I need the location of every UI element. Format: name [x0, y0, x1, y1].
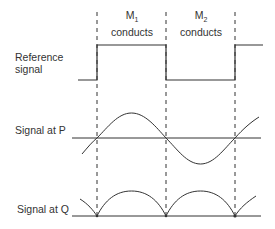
reference-label-line1: Reference [15, 51, 63, 63]
phase-m1-subscript: 1 [134, 16, 138, 23]
signal-p-label: Signal at P [15, 124, 66, 136]
reference-square-wave [78, 45, 263, 80]
reference-signal-label: Reference signal [15, 51, 63, 75]
reference-label-line2: signal [15, 63, 63, 75]
phase-label-m2: M2 conducts [172, 9, 230, 38]
phase-label-m1: M1 conducts [103, 9, 161, 38]
phase-m2-text: conducts [172, 26, 230, 38]
signal-q-rectified-wave [80, 191, 256, 216]
signal-q-label: Signal at Q [17, 203, 69, 215]
switching-boundary-lines [97, 12, 235, 216]
phase-m2-subscript: 2 [203, 16, 207, 23]
phase-m1-text: conducts [103, 26, 161, 38]
